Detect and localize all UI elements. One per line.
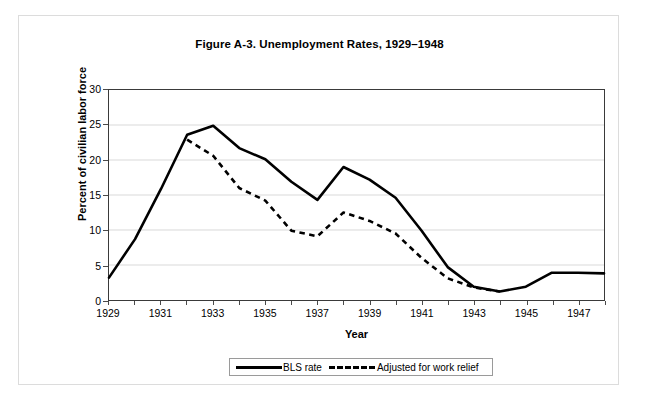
y-axis-tick-mark: [103, 195, 108, 196]
chart-plot-svg: [109, 90, 604, 300]
x-axis-tick-mark: [370, 301, 371, 305]
legend-entry-bls-rate: BLS rate: [236, 362, 329, 373]
x-axis-tick-mark: [186, 301, 187, 305]
x-axis-tick-mark: [448, 301, 449, 305]
y-axis-tick-mark: [103, 124, 108, 125]
x-axis-tick-label: 1931: [140, 307, 180, 319]
x-axis-tick-label: 1933: [193, 307, 233, 319]
legend-label-adjusted-for-work-relief: Adjusted for work relief: [377, 362, 479, 373]
y-axis-tick-label: 20: [67, 154, 101, 166]
x-axis-tick-mark: [134, 301, 135, 305]
x-axis-tick-label: 1943: [454, 307, 494, 319]
y-axis-tick-mark: [103, 89, 108, 90]
x-axis-tick-label: 1945: [507, 307, 547, 319]
y-axis-tick-label: 30: [67, 83, 101, 95]
solid-line-swatch-icon: [236, 366, 282, 369]
legend-entry-adjusted-for-work-relief: Adjusted for work relief: [329, 362, 486, 373]
y-axis-tick-mark: [103, 266, 108, 267]
chart-legend: BLS rate Adjusted for work relief: [229, 358, 493, 376]
series-line-adjusted-for-work-relief: [187, 140, 500, 292]
x-axis-tick-label: 1941: [402, 307, 442, 319]
x-axis-tick-mark: [396, 301, 397, 305]
x-axis-tick-mark: [265, 301, 266, 305]
x-axis-tick-mark: [605, 301, 606, 305]
x-axis-tick-mark: [474, 301, 475, 305]
x-axis-tick-mark: [527, 301, 528, 305]
x-axis-tick-mark: [553, 301, 554, 305]
x-axis-tick-mark: [239, 301, 240, 305]
y-axis-tick-label: 25: [67, 118, 101, 130]
figure-container: Figure A-3. Unemployment Rates, 1929–194…: [18, 15, 619, 385]
y-axis-tick-label: 10: [67, 224, 101, 236]
y-axis-tick-mark: [103, 230, 108, 231]
chart-title: Figure A-3. Unemployment Rates, 1929–194…: [19, 38, 620, 50]
x-axis-tick-label: 1939: [350, 307, 390, 319]
x-axis-tick-mark: [108, 301, 109, 305]
x-axis-tick-mark: [317, 301, 318, 305]
x-axis-tick-mark: [422, 301, 423, 305]
x-axis-tick-mark: [500, 301, 501, 305]
legend-label-bls-rate: BLS rate: [283, 362, 322, 373]
x-axis-title: Year: [108, 328, 605, 340]
x-axis-tick-mark: [291, 301, 292, 305]
y-axis-tick-label: 0: [67, 295, 101, 307]
series-line-bls-rate: [109, 126, 604, 292]
y-axis-tick-mark: [103, 160, 108, 161]
x-axis-tick-mark: [579, 301, 580, 305]
y-axis-tick-label: 5: [67, 260, 101, 272]
x-axis-tick-label: 1929: [88, 307, 128, 319]
y-axis-tick-label: 15: [67, 189, 101, 201]
x-axis-tick-mark: [160, 301, 161, 305]
x-axis-tick-label: 1935: [245, 307, 285, 319]
x-axis-tick-mark: [343, 301, 344, 305]
x-axis-tick-label: 1937: [297, 307, 337, 319]
gridlines-group: [109, 125, 604, 265]
plot-area: [108, 89, 605, 301]
x-axis-tick-label: 1947: [559, 307, 599, 319]
x-axis-tick-mark: [213, 301, 214, 305]
dashed-line-swatch-icon: [329, 366, 375, 369]
